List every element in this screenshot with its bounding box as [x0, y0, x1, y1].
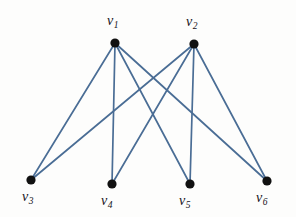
edge-layer	[31, 43, 267, 184]
graph-edge-v2-v6	[194, 44, 267, 181]
graph-edge-v2-v4	[112, 44, 194, 184]
graph-vertex-v5	[185, 179, 194, 188]
vertex-label-subscript-v2: 2	[192, 21, 197, 31]
vertex-label-subscript-v6: 6	[262, 197, 267, 207]
graph-edge-v1-v3	[31, 43, 115, 180]
vertex-label-v4: v4	[101, 194, 112, 210]
graph-vertex-v3	[26, 175, 35, 184]
graph-edge-v1-v4	[112, 43, 115, 184]
vertex-label-v5: v5	[179, 194, 190, 210]
graph-vertex-v1	[110, 38, 119, 47]
vertex-layer	[26, 38, 271, 188]
graph-figure: v1v2v3v4v5v6	[0, 0, 296, 217]
vertex-label-subscript-v4: 4	[107, 200, 112, 210]
vertex-label-subscript-v3: 3	[28, 196, 33, 206]
graph-canvas	[0, 0, 296, 217]
vertex-label-v1: v1	[107, 14, 118, 30]
vertex-label-v6: v6	[256, 191, 267, 207]
vertex-label-subscript-v1: 1	[113, 20, 118, 30]
vertex-label-subscript-v5: 5	[185, 200, 190, 210]
vertex-label-v2: v2	[186, 15, 197, 31]
graph-vertex-v2	[189, 39, 198, 48]
vertex-label-v3: v3	[22, 190, 33, 206]
graph-vertex-v4	[107, 179, 116, 188]
graph-vertex-v6	[262, 176, 271, 185]
